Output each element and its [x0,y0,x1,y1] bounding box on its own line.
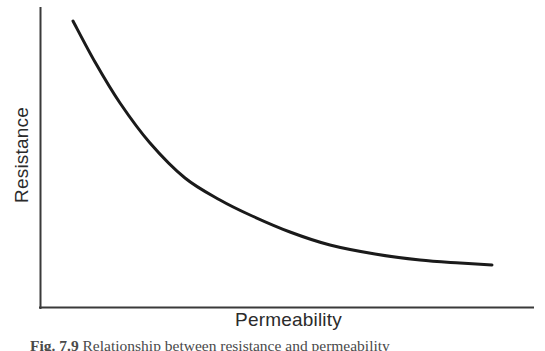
figure-caption-body: Relationship between resistance and perm… [83,338,390,351]
figure-number: Fig. 7.9 [30,338,79,351]
resistance-permeability-curve [73,21,492,265]
x-axis-label: Permeability [0,309,545,331]
y-axis-label: Resistance [0,0,44,351]
figure-caption-text: Fig. 7.9 Relationship between resistance… [30,338,545,351]
x-axis-label-text: Permeability [235,309,342,331]
y-axis-label-text: Resistance [11,107,33,203]
figure-caption: Fig. 7.9 Relationship between resistance… [30,338,545,351]
figure-container: Resistance Permeability Fig. 7.9 Relatio… [0,0,545,351]
plot-canvas [0,0,545,351]
